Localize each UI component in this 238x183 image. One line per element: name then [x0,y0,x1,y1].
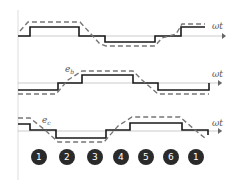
sector-2: 2 [64,152,70,162]
sector-markers: 1 2 3 4 5 6 1 [31,149,204,165]
waveform-c: ec ωt [18,115,223,142]
omega-t-label-b: ωt [212,69,223,79]
waveform-diagram: ωt eb ωt ec ωt 1 2 3 4 5 6 1 [0,0,238,183]
eb-label: eb [65,64,74,75]
sector-4: 4 [118,152,124,162]
sector-1b: 1 [193,152,199,162]
waveform-a: ωt [18,21,226,46]
ec-label: ec [42,115,51,126]
sector-6: 6 [168,152,174,162]
sector-3: 3 [92,152,98,162]
waveform-b: eb ωt [18,64,223,94]
sector-1: 1 [36,152,42,162]
omega-t-label: ωt [212,21,223,31]
omega-t-label-c: ωt [212,118,223,128]
sector-5: 5 [143,152,149,162]
